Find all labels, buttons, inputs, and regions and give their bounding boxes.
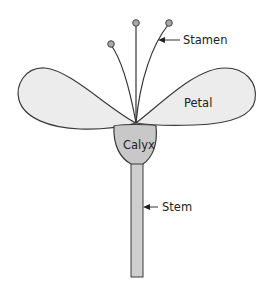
flower-diagram: Stamen Petal Calyx Stem [0, 0, 269, 293]
anther-middle [133, 20, 140, 27]
label-petal: Petal [184, 96, 212, 110]
label-stem: Stem [162, 200, 192, 214]
anther-right [166, 20, 173, 27]
label-calyx: Calyx [123, 138, 155, 152]
label-stamen: Stamen [183, 33, 227, 47]
stem-arrowhead-icon [143, 204, 150, 210]
anther-left [108, 41, 115, 48]
petal-left [18, 68, 136, 129]
stem [131, 160, 143, 277]
